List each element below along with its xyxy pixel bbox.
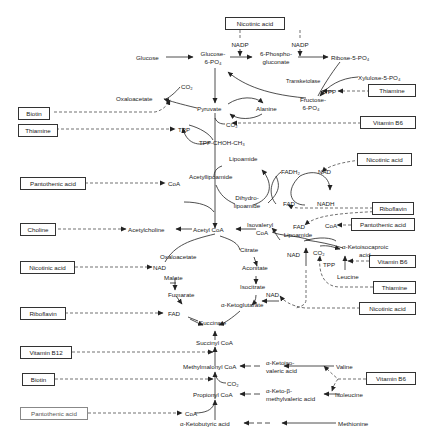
vitamin-box-nicotinic-acid: Nicotinic acid xyxy=(20,261,75,274)
acetylcholine-label: Acetylcholine xyxy=(128,226,164,233)
nadp-label: NADP xyxy=(231,41,248,48)
nadh-label: NADH xyxy=(317,200,335,207)
vitamin-box-vitamin-b6: Vitamin B6 xyxy=(360,116,416,129)
phosphogluconate-label: gluconate xyxy=(263,58,290,65)
transketolase-label: Transketolase xyxy=(286,78,320,85)
alpha-ketoglutarate-label: α-Ketoglutarate xyxy=(221,301,263,308)
vitamin-box-nicotinic-acid: Nicotinic acid xyxy=(225,17,285,30)
dihydrolipoamide-label: Dihydro- xyxy=(235,194,258,201)
coa-label: CoA xyxy=(185,410,197,417)
fumarate-label: Fumarate xyxy=(168,291,194,298)
vitamin-box-thiamine: Thiamine xyxy=(18,124,58,137)
isoleucine-label: Isoleucine xyxy=(335,391,363,398)
pyruvate-label: Pyruvate xyxy=(197,105,221,112)
acetyl-coa-label: Acetyl CoA xyxy=(193,226,224,233)
coa-label: CoA xyxy=(168,180,180,187)
fad-label: FAD xyxy=(283,200,295,207)
xylulose-5-phosphate-label: Xylulose-5-PO₄ xyxy=(358,74,400,81)
ketoisocaproic-acid-label: α-Ketoisocaproic xyxy=(342,243,388,250)
oxaloacetate-label: Oxaloacetate xyxy=(160,253,196,260)
glucose-label: Glucose xyxy=(136,54,159,61)
vitamin-box-choline: Choline xyxy=(20,223,56,236)
succinate-label: Succinate xyxy=(199,319,226,326)
methylmalonyl-coa-label: Methylmalonyl CoA xyxy=(183,363,236,370)
vitamin-box-pantothenic-acid: Pantothenic acid xyxy=(20,407,88,420)
vitamin-box-pantothenic-acid: Pantothenic acid xyxy=(351,218,415,231)
vitamin-metabolism-diagram: Nicotinic acid Biotin Thiamine Thiamine … xyxy=(0,0,432,446)
ketoisocaproic-acid-label: acid xyxy=(359,251,370,258)
isovaleryl-coa-label: Isovaleryl xyxy=(247,221,273,228)
alanine-label: Alanine xyxy=(256,105,277,112)
vitamin-box-nicotinic-acid: Nicotinic acid xyxy=(357,153,412,166)
ketomethylvaleric-acid-label: methylvaleric acid xyxy=(266,395,315,402)
coa-label: CoA xyxy=(325,222,337,229)
tpp-label: TPP xyxy=(324,88,336,95)
valine-label: Valine xyxy=(336,363,353,370)
alpha-ketobutyric-acid-label: α-Ketobutyric acid xyxy=(180,420,230,427)
fructose-6-phosphate-label: Fructose- xyxy=(300,96,326,103)
ketoisovaleric-acid-label: α-Ketoiso- xyxy=(266,359,294,366)
vitamin-box-nicotinic-acid: Nicotinic acid xyxy=(359,302,416,315)
nadp-label: NADP xyxy=(291,41,308,48)
oxaloacetate-label: Oxaloacetate xyxy=(116,95,152,102)
isovaleryl-coa-label: CoA xyxy=(256,229,268,236)
propionyl-coa-label: Propionyl CoA xyxy=(193,391,233,398)
fad-label: FAD xyxy=(168,310,180,317)
nad-label: NAD xyxy=(153,264,166,271)
fructose-6-phosphate-label: 6-PO₄ xyxy=(303,104,320,111)
ribose-5-phosphate-label: Ribose-5-PO₄ xyxy=(331,54,369,61)
nad-label: NAD xyxy=(318,168,331,175)
lipoamide-label: Lipoamide xyxy=(284,231,313,238)
vitamin-box-riboflavin: Riboflavin xyxy=(20,307,66,320)
vitamin-box-vitamin-b12: Vitamin B12 xyxy=(20,346,72,359)
malate-label: Malate xyxy=(164,274,183,281)
vitamin-box-vitamin-b6: Vitamin B6 xyxy=(369,255,416,268)
ketoisovaleric-acid-label: valeric acid xyxy=(266,367,297,374)
nad-label: NAD xyxy=(287,251,300,258)
phosphogluconate-label: 6-Phospho- xyxy=(260,50,292,57)
nad-label: NAD xyxy=(266,291,279,298)
tpp-label: TPP xyxy=(323,261,335,268)
lipoamide-label: Lipoamide xyxy=(229,155,258,162)
co2-label: CO₂ xyxy=(226,121,238,128)
fad-label: FAD xyxy=(293,223,305,230)
glucose-6-phosphate-label: Glucose- xyxy=(201,50,226,57)
dihydrolipoamide-label: lipoamide xyxy=(234,202,260,209)
tpp-choh-ch3-label: TPP-CHOH-CH₃ xyxy=(199,139,245,146)
succinyl-coa-label: Succinyl CoA xyxy=(196,339,233,346)
citrate-label: Citrate xyxy=(240,246,258,253)
vitamin-box-thiamine: Thiamine xyxy=(368,84,416,97)
ketomethylvaleric-acid-label: α-Keto-β- xyxy=(266,387,292,394)
aconitate-label: Aconitate xyxy=(242,264,268,271)
acetyllipoamide-label: Acetyllipoamide xyxy=(189,173,232,180)
vitamin-box-biotin: Biotin xyxy=(22,373,55,386)
vitamin-box-biotin: Biotin xyxy=(18,107,50,120)
co2-label: CO₂ xyxy=(181,83,193,90)
co2-label: CO₂ xyxy=(227,380,239,387)
methionine-label: Methionine xyxy=(338,420,368,427)
vitamin-box-riboflavin: Riboflavin xyxy=(372,202,414,215)
leucine-label: Leucine xyxy=(337,273,359,280)
co2-label: CO₂ xyxy=(313,249,325,256)
glucose-6-phosphate-label: 6-PO₄ xyxy=(205,58,222,65)
vitamin-box-pantothenic-acid: Pantothenic acid xyxy=(20,177,86,190)
tpp-label: TPP xyxy=(178,126,190,133)
fadh2-label: FADH₂ xyxy=(281,168,300,175)
isocitrate-label: Isocitrate xyxy=(240,283,265,290)
vitamin-box-vitamin-b6: Vitamin B6 xyxy=(366,372,416,385)
vitamin-box-thiamine: Thiamine xyxy=(373,281,416,294)
